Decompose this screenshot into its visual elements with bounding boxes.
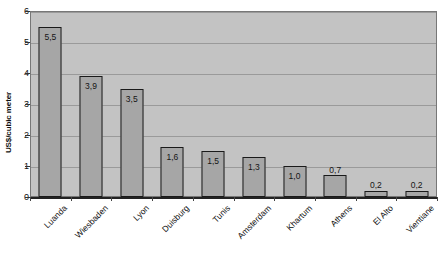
x-axis-tick-mark	[274, 197, 275, 201]
bar-value-label: 0,7	[329, 165, 341, 175]
bar[interactable]: 3,9	[80, 76, 103, 197]
x-axis-tick-mark	[315, 197, 316, 201]
y-axis-tick-mark	[25, 11, 30, 12]
x-axis-tick-mark	[193, 197, 194, 201]
bar[interactable]: 5,5	[39, 27, 62, 198]
bar-value-label: 3,9	[85, 81, 97, 91]
x-axis-tick-mark	[234, 197, 235, 201]
bar-slot: 3,9	[71, 11, 112, 197]
x-axis-tick-mark	[71, 197, 72, 201]
x-axis-labels: LuandaWiesbadenLyonDuisburgTunisAmsterda…	[30, 203, 437, 259]
x-axis-tick-mark	[30, 197, 31, 201]
bar[interactable]: 1,5	[202, 151, 225, 198]
x-axis-tick-mark	[356, 197, 357, 201]
y-axis-tick-mark	[25, 104, 30, 105]
bar-value-label: 1,3	[248, 162, 260, 172]
bar-value-label: 1,0	[289, 171, 301, 181]
x-axis-tick-mark	[396, 197, 397, 201]
bar-slot: 1,6	[152, 11, 193, 197]
bar-slot: 0,2	[356, 11, 397, 197]
bar-value-label: 1,6	[167, 152, 179, 162]
bar[interactable]: 1,6	[161, 147, 184, 197]
bar-slot: 0,7	[315, 11, 356, 197]
bar-slot: 1,3	[234, 11, 275, 197]
bar-value-label: 5,5	[44, 32, 56, 42]
y-axis-tick-mark	[25, 135, 30, 136]
x-axis-tick-mark	[111, 197, 112, 201]
bar-value-label: 0,2	[411, 180, 423, 190]
bar-slot: 0,2	[396, 11, 437, 197]
bar-slot: 5,5	[30, 11, 71, 197]
bar-value-label: 3,5	[126, 94, 138, 104]
bar[interactable]: 0,7	[324, 175, 347, 197]
x-axis-tick-mark	[437, 197, 438, 201]
y-axis-tick-mark	[25, 73, 30, 74]
bar-slot: 1,5	[193, 11, 234, 197]
y-axis-tick-mark	[25, 42, 30, 43]
bar-chart-figure: US$/cubic meter 5,53,93,51,61,51,31,00,7…	[0, 0, 447, 259]
bar[interactable]: 1,0	[283, 166, 306, 197]
y-axis-tick-mark	[25, 166, 30, 167]
bar-value-label: 0,2	[370, 180, 382, 190]
bar[interactable]: 1,3	[242, 157, 265, 197]
bar[interactable]: 3,5	[120, 89, 143, 198]
bar-slot: 1,0	[274, 11, 315, 197]
bars-layer: 5,53,93,51,61,51,31,00,70,20,2	[30, 11, 437, 197]
bar-value-label: 1,5	[207, 156, 219, 166]
bar-slot: 3,5	[111, 11, 152, 197]
x-axis-tick-mark	[152, 197, 153, 201]
